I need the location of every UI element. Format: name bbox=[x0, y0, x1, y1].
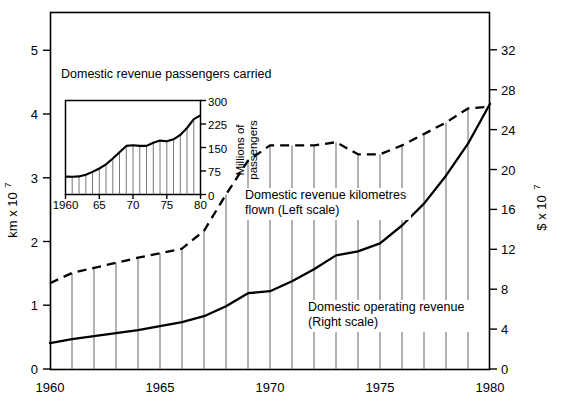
left-axis-title: km x 10 7 bbox=[2, 182, 20, 237]
main-x-axis: 1960 1965 1970 1975 1980 bbox=[36, 380, 505, 395]
right-tick-label: 12 bbox=[501, 242, 515, 257]
x-tick-label: 1975 bbox=[366, 380, 395, 395]
left-axis: 0 1 2 3 4 5 km x 10 7 bbox=[2, 43, 50, 377]
inset-title: Domestic revenue passengers carried bbox=[61, 67, 272, 81]
solid-series-label-line1: Domestic operating revenue bbox=[308, 300, 464, 314]
x-tick-label: 1970 bbox=[256, 380, 285, 395]
inset-x-tick-label: 75 bbox=[160, 199, 173, 211]
inset-y-tick-label: 150 bbox=[208, 143, 227, 155]
inset-chart: Domestic revenue passengers carried bbox=[53, 67, 272, 211]
inset-y-tick-label: 0 bbox=[208, 190, 214, 202]
right-axis-title: $ x 10 7 bbox=[531, 184, 549, 230]
svg-text:Millions ofpassengers: Millions ofpassengers bbox=[234, 120, 259, 180]
inset-y-tick-label: 75 bbox=[208, 166, 221, 178]
left-tick-label: 5 bbox=[31, 43, 38, 58]
svg-text:$ x 10: $ x 10 bbox=[534, 195, 549, 230]
right-axis-exponent: 7 bbox=[531, 184, 542, 189]
right-tick-label: 32 bbox=[501, 43, 515, 58]
inset-y-axis: 0 75 150 225 300 bbox=[201, 96, 228, 202]
inset-x-tick-label: 80 bbox=[194, 199, 207, 211]
left-tick-label: 2 bbox=[31, 235, 38, 250]
x-tick-label: 1980 bbox=[476, 380, 505, 395]
dashed-series-label-line2: flown (Left scale) bbox=[245, 203, 339, 217]
inset-x-tick-label: 1960 bbox=[53, 199, 79, 211]
dashed-series-label-line1: Domestic revenue kilometres bbox=[245, 188, 406, 202]
inset-y-tick-label: 300 bbox=[208, 96, 227, 108]
left-axis-exponent: 7 bbox=[2, 182, 13, 187]
right-tick-label: 20 bbox=[501, 163, 515, 178]
chart-canvas: 1960 1965 1970 1975 1980 0 1 bbox=[0, 0, 563, 414]
inset-y-tick-label: 225 bbox=[208, 119, 227, 131]
solid-series-label-line2: (Right scale) bbox=[308, 315, 378, 329]
svg-text:km x 10: km x 10 bbox=[5, 192, 20, 238]
right-tick-label: 16 bbox=[501, 202, 515, 217]
inset-x-tick-label: 65 bbox=[93, 199, 106, 211]
left-tick-label: 0 bbox=[31, 362, 38, 377]
right-axis: 0 4 8 12 16 20 24 28 32 $ x 10 7 bbox=[490, 43, 549, 377]
inset-x-axis: 1960 65 70 75 80 bbox=[53, 199, 207, 211]
right-tick-label: 28 bbox=[501, 83, 515, 98]
left-tick-label: 3 bbox=[31, 171, 38, 186]
right-tick-label: 8 bbox=[501, 282, 508, 297]
chart-figure: 1960 1965 1970 1975 1980 0 1 bbox=[0, 0, 563, 414]
dashed-series-annotation: Domestic revenue kilometres flown (Left … bbox=[243, 188, 411, 220]
x-tick-label: 1960 bbox=[36, 380, 65, 395]
x-tick-label: 1965 bbox=[146, 380, 175, 395]
inset-x-tick-label: 70 bbox=[127, 199, 140, 211]
left-tick-label: 4 bbox=[31, 107, 38, 122]
right-tick-label: 0 bbox=[501, 362, 508, 377]
right-tick-label: 24 bbox=[501, 123, 515, 138]
left-tick-label: 1 bbox=[31, 298, 38, 313]
right-tick-label: 4 bbox=[501, 322, 508, 337]
inset-y-axis-title: Millions ofpassengers bbox=[234, 120, 259, 180]
solid-series-annotation: Domestic operating revenue (Right scale) bbox=[306, 300, 472, 332]
